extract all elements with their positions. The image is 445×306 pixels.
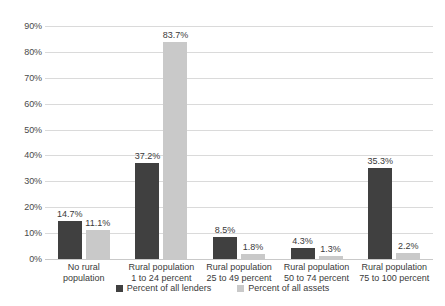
bar[interactable] xyxy=(319,256,343,259)
bar-slot: 83.7% xyxy=(163,26,187,259)
bar-pair: 4.3%1.3% xyxy=(278,26,356,259)
bar-slot: 11.1% xyxy=(86,26,110,259)
bar-value-label: 11.1% xyxy=(85,218,110,228)
bar-value-label: 14.7% xyxy=(57,209,83,219)
y-axis-tick: 80% xyxy=(2,48,42,57)
bar[interactable] xyxy=(291,248,315,259)
y-axis-tick: 10% xyxy=(2,229,42,238)
y-axis-tick: 30% xyxy=(2,177,42,186)
x-axis-label: Rural population75 to 100 percent xyxy=(355,262,433,284)
bar-pair: 8.5%1.8% xyxy=(200,26,278,259)
bar-value-label: 8.5% xyxy=(215,225,236,235)
bar[interactable] xyxy=(86,230,110,259)
bar-value-label: 35.3% xyxy=(367,156,393,166)
x-axis-label: Rural population50 to 74 percent xyxy=(278,262,356,284)
legend-label: Percent of all lenders xyxy=(127,283,212,293)
bar-group: 4.3%1.3% xyxy=(278,26,356,259)
bar-value-label: 2.2% xyxy=(398,241,419,251)
bar-value-label: 4.3% xyxy=(292,236,313,246)
x-axis-label: Rural population1 to 24 percent xyxy=(123,262,201,284)
x-axis-label: No ruralpopulation xyxy=(45,262,123,284)
bar-chart: 90%80%70%60%50%40%30%20%10%0% 14.7%11.1%… xyxy=(0,0,445,306)
axis-baseline xyxy=(45,259,433,260)
bar-pair: 35.3%2.2% xyxy=(355,26,433,259)
legend-label: Percent of all assets xyxy=(248,283,329,293)
chart-legend: Percent of all lendersPercent of all ass… xyxy=(0,283,445,293)
bar-slot: 14.7% xyxy=(58,26,82,259)
x-axis-label-line: No rural xyxy=(45,262,123,273)
bar[interactable] xyxy=(213,237,237,259)
y-axis-tick: 70% xyxy=(2,74,42,83)
bar-value-label: 83.7% xyxy=(163,30,189,40)
y-axis-tick: 20% xyxy=(2,203,42,212)
bar-slot: 8.5% xyxy=(213,26,237,259)
bar[interactable] xyxy=(396,253,420,259)
bar[interactable] xyxy=(135,163,159,259)
legend-item[interactable]: Percent of all assets xyxy=(237,283,329,293)
legend-swatch-icon xyxy=(237,285,244,292)
y-axis-tick: 40% xyxy=(2,151,42,160)
x-axis-label-line: Rural population xyxy=(200,262,278,273)
x-axis-label-line: Rural population xyxy=(355,262,433,273)
bar-slot: 37.2% xyxy=(135,26,159,259)
y-axis-tick: 0% xyxy=(2,255,42,264)
bar-value-label: 37.2% xyxy=(135,151,161,161)
bar[interactable] xyxy=(58,221,82,259)
x-axis-categories: No ruralpopulationRural population1 to 2… xyxy=(45,262,433,284)
bar-value-label: 1.8% xyxy=(243,242,264,252)
bar-slot: 2.2% xyxy=(396,26,420,259)
y-axis: 90%80%70%60%50%40%30%20%10%0% xyxy=(0,26,42,259)
bar[interactable] xyxy=(368,168,392,259)
y-axis-tick: 60% xyxy=(2,100,42,109)
y-axis-tick: 90% xyxy=(2,22,42,31)
bar-pair: 37.2%83.7% xyxy=(123,26,201,259)
legend-item[interactable]: Percent of all lenders xyxy=(116,283,212,293)
bar-group: 8.5%1.8% xyxy=(200,26,278,259)
x-axis-label: Rural population25 to 49 percent xyxy=(200,262,278,284)
bar-groups: 14.7%11.1%37.2%83.7%8.5%1.8%4.3%1.3%35.3… xyxy=(45,26,433,259)
x-axis-label-line: Rural population xyxy=(123,262,201,273)
bar-group: 14.7%11.1% xyxy=(45,26,123,259)
bar-group: 35.3%2.2% xyxy=(355,26,433,259)
bar-value-label: 1.3% xyxy=(320,244,341,254)
bar-slot: 1.3% xyxy=(319,26,343,259)
legend-swatch-icon xyxy=(116,285,123,292)
bar-group: 37.2%83.7% xyxy=(123,26,201,259)
bar-slot: 35.3% xyxy=(368,26,392,259)
bar[interactable] xyxy=(163,42,187,259)
x-axis-label-line: Rural population xyxy=(278,262,356,273)
bar-pair: 14.7%11.1% xyxy=(45,26,123,259)
bar[interactable] xyxy=(241,254,265,259)
bar-slot: 4.3% xyxy=(291,26,315,259)
y-axis-tick: 50% xyxy=(2,126,42,135)
bar-slot: 1.8% xyxy=(241,26,265,259)
